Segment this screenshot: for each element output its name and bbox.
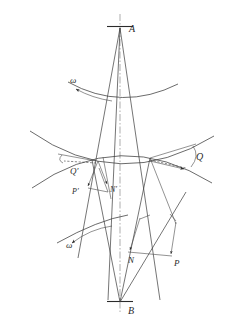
great-circle-arc-upper bbox=[30, 131, 214, 164]
omega-lower-arrow bbox=[72, 226, 112, 243]
geometry-figure: A B ω ω Q Q′ P N P′ N′ bbox=[0, 0, 245, 325]
label-angle-left: Q′ bbox=[70, 166, 79, 176]
vector-to-p bbox=[171, 222, 176, 254]
label-point-n-prime: N′ bbox=[109, 185, 117, 194]
great-circle-arc-lower bbox=[32, 156, 212, 188]
edge-q-to-p bbox=[150, 158, 176, 224]
angle-qprime-arc bbox=[60, 155, 63, 163]
label-apex-top: A bbox=[128, 23, 136, 34]
meridian-line-a-left bbox=[78, 28, 120, 258]
angle-qprime-upper-ray bbox=[58, 154, 96, 161]
vector-to-n bbox=[130, 218, 140, 250]
label-omega-upper: ω bbox=[70, 75, 76, 85]
angle-qprime-dashed-ray bbox=[64, 161, 96, 163]
tick-mark-n bbox=[140, 215, 150, 219]
meridian-line-b-right bbox=[120, 158, 150, 302]
label-point-p-prime: P′ bbox=[71, 187, 79, 196]
omega-upper-arrow bbox=[76, 89, 112, 101]
label-point-p: P bbox=[173, 258, 180, 268]
label-apex-bottom: B bbox=[128, 305, 134, 316]
upper-latitude-arc bbox=[68, 82, 178, 98]
meridian-line-b-far-right bbox=[120, 192, 186, 302]
angle-q-dashed-ray bbox=[150, 160, 186, 168]
label-omega-lower: ω bbox=[66, 240, 72, 250]
diagram-canvas: A B ω ω Q Q′ P N P′ N′ bbox=[0, 0, 245, 325]
lower-latitude-arc bbox=[57, 215, 128, 243]
parallelogram-left-side bbox=[99, 168, 108, 192]
label-angle-right: Q bbox=[196, 151, 204, 162]
label-point-n: N bbox=[127, 255, 135, 265]
